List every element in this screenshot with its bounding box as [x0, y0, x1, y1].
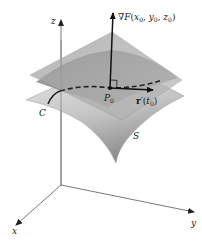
curve-c-label: C — [39, 109, 46, 118]
y-axis-label: y — [191, 219, 196, 228]
diagram-canvas — [0, 0, 202, 241]
y-axis — [61, 185, 194, 212]
x-axis — [16, 185, 61, 225]
gradient-label: ∇F(x0, y0, z0) — [118, 13, 175, 23]
point-sub: 0 — [110, 97, 114, 104]
tangent-vector-label: r′(t0) — [136, 97, 157, 107]
surface-s-label: S — [133, 132, 139, 141]
paren-close-t: ) — [154, 96, 158, 106]
x-axis-label: x — [12, 227, 17, 236]
gradient-diagram: z x y ∇F(x0, y0, z0) P0 r′(t0) C S — [0, 0, 202, 241]
point-p0 — [108, 86, 112, 90]
p0-label: P0 — [104, 94, 114, 104]
paren-close: ) — [172, 12, 176, 22]
z-axis-label: z — [51, 17, 56, 26]
